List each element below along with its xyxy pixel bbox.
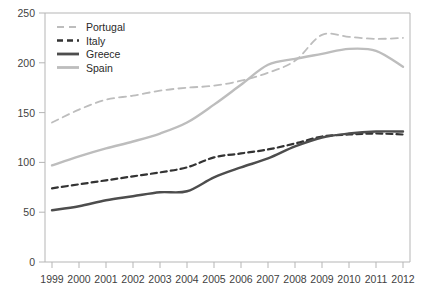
x-tick-label-2006: 2006 <box>229 273 253 285</box>
x-tick-label-2002: 2002 <box>121 273 145 285</box>
y-tick-label-150: 150 <box>17 107 35 119</box>
x-tick-label-2011: 2011 <box>365 273 388 285</box>
y-tick-label-250: 250 <box>17 7 35 19</box>
chart-background <box>0 0 429 301</box>
x-tick-label-2008: 2008 <box>283 273 307 285</box>
x-tick-label-2012: 2012 <box>391 273 415 285</box>
x-tick-label-2009: 2009 <box>310 273 334 285</box>
x-tick-label-1999: 1999 <box>40 273 64 285</box>
x-tick-label-2004: 2004 <box>175 273 199 285</box>
line-chart-figure: 250 200 150 100 50 0 1999200020012002200… <box>0 0 429 301</box>
legend-label-portugal: Portugal <box>86 21 125 33</box>
legend-label-spain: Spain <box>86 62 113 74</box>
y-tick-label-0: 0 <box>29 256 35 268</box>
y-tick-label-100: 100 <box>17 156 35 168</box>
x-tick-label-2007: 2007 <box>256 273 280 285</box>
x-tick-label-2010: 2010 <box>337 273 361 285</box>
chart-canvas: 250 200 150 100 50 0 1999200020012002200… <box>0 0 429 301</box>
y-tick-label-200: 200 <box>17 57 35 69</box>
y-tick-label-50: 50 <box>23 206 35 218</box>
legend-label-italy: Italy <box>86 35 106 47</box>
x-tick-label-2000: 2000 <box>67 273 91 285</box>
legend-label-greece: Greece <box>86 48 121 60</box>
x-tick-label-2005: 2005 <box>202 273 226 285</box>
x-tick-label-2001: 2001 <box>94 273 118 285</box>
x-tick-label-2003: 2003 <box>148 273 172 285</box>
